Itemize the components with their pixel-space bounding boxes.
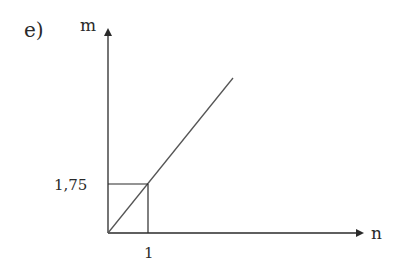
- y-axis-label: m: [80, 15, 96, 35]
- x-tick-label: 1: [144, 244, 154, 262]
- part-label: e): [24, 18, 44, 42]
- x-axis-label: n: [371, 223, 382, 243]
- y-tick-label: 1,75: [54, 176, 87, 194]
- data-line: [108, 78, 233, 233]
- diagram-canvas: e) m n 1,75 1: [0, 0, 402, 274]
